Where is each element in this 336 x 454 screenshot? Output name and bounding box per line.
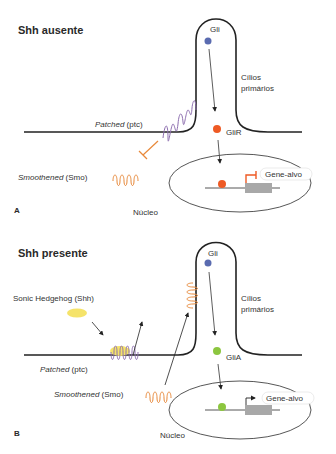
arrow-gli-to-glir — [209, 49, 215, 111]
cilia-label-b1: Cílios — [241, 294, 261, 303]
cilia-label-a1: Cílios — [241, 73, 261, 82]
glir-dot — [213, 125, 221, 133]
panel-a-letter: A — [14, 206, 20, 215]
gli-label-a: Gli — [210, 25, 220, 34]
nucleus-label-b: Núcleo — [160, 431, 185, 440]
repression-symbol — [246, 171, 256, 183]
gli-dot-a — [205, 38, 212, 45]
nucleus-a — [169, 154, 311, 212]
gene-box-a — [245, 183, 272, 193]
glir-bound-dot — [218, 180, 226, 188]
target-gene-label-b: Gene-alvo — [266, 394, 303, 403]
panel-b-title: Shh presente — [18, 247, 88, 259]
hedgehog-diagram: Shh ausente Gli Cílios primários Patched… — [0, 0, 336, 454]
shh-label: Sonic Hedgehog (Shh) — [13, 294, 94, 303]
activation-arrow — [246, 398, 255, 405]
arrow-glia-to-nucleus — [218, 364, 221, 389]
arrow-glir-to-nucleus — [218, 140, 220, 163]
arrow-smo-to-cilium — [165, 313, 188, 385]
gli-label-b: Gli — [208, 249, 218, 258]
panel-a-title: Shh ausente — [18, 24, 83, 36]
glir-label: GliR — [226, 128, 242, 137]
target-gene-label-a: Gene-alvo — [265, 170, 302, 179]
glia-bound-dot — [218, 403, 226, 411]
arrow-gli-to-glia — [209, 272, 215, 335]
patched-receptor-a — [163, 101, 196, 141]
inhibition-line — [143, 141, 158, 155]
smoothened-label-b: Smoothened (Smo) — [54, 390, 124, 399]
arrow-shh-to-ptc — [92, 322, 103, 335]
patched-label-b: Patched (ptc) — [40, 365, 88, 374]
gli-dot-b — [205, 260, 212, 267]
smoothened-receptor-b — [146, 392, 171, 403]
panel-a: Shh ausente Gli Cílios primários Patched… — [14, 19, 312, 217]
smoothened-label-a: Smoothened (Smo) — [18, 173, 88, 182]
shh-ligand — [67, 309, 87, 318]
smoothened-receptor-a — [113, 175, 138, 186]
panel-b-letter: B — [14, 429, 20, 438]
cilia-label-a2: primários — [241, 84, 274, 93]
figure-caption: Figura 17.12 — Via de sinalização Sonic … — [8, 444, 328, 450]
arrow-ptc-to-cilium — [133, 322, 142, 355]
nucleus-label-a: Núcleo — [133, 208, 158, 217]
patched-label-a: Patched (ptc) — [95, 120, 143, 129]
panel-b: Shh presente Gli Cílios primários Sonic … — [13, 243, 314, 441]
cilia-label-b2: primários — [241, 305, 274, 314]
glia-label: GliA — [226, 353, 242, 362]
gene-box-b — [245, 405, 272, 415]
glia-dot — [213, 347, 221, 355]
